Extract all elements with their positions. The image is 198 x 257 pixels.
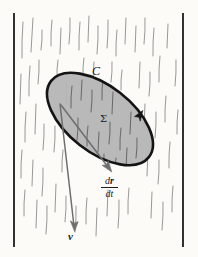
fraction-numerator: dr [104, 176, 115, 186]
rain-flux-diagram: C Σ v dr dt [0, 0, 198, 257]
velocity-label-v: v [68, 231, 73, 242]
displacement-rate-label-drdt: dr dt [101, 176, 118, 199]
surface-label-sigma: Σ [100, 114, 107, 124]
numerator-vector-r: r [110, 175, 114, 186]
curve-label-c: C [92, 65, 100, 77]
diagram-canvas [0, 0, 198, 257]
fraction-denominator: dt [105, 189, 115, 199]
denominator-t: t [111, 188, 114, 199]
